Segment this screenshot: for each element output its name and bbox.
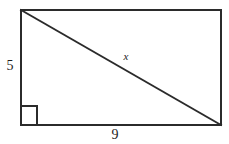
side-label-height: 5 xyxy=(3,59,17,73)
geometry-figure: 5 9 x xyxy=(0,0,229,144)
side-label-diagonal: x xyxy=(118,51,134,62)
side-label-base: 9 xyxy=(103,128,127,142)
right-angle-marker-icon xyxy=(21,106,37,125)
figure-canvas xyxy=(0,0,229,144)
diagonal-line xyxy=(21,10,221,125)
